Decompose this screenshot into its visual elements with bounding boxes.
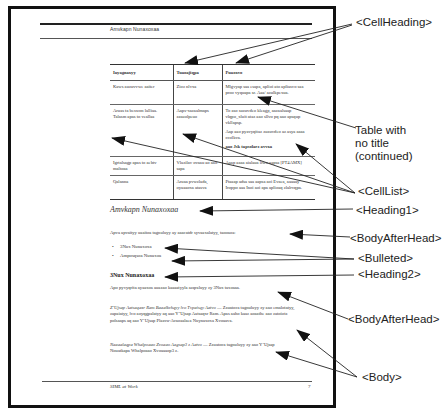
callout-body: <Body> [362, 371, 402, 384]
arrow-cell-list-3 [296, 144, 355, 193]
callout-cell-heading: <CellHeading> [356, 16, 432, 29]
callout-body-after-head-1: <BodyAfterHead> [350, 232, 441, 245]
callout-heading2: <Heading2> [358, 268, 421, 281]
arrow-bulleted-1 [165, 248, 354, 259]
arrow-table-note [258, 97, 356, 128]
arrow-cell-heading-2 [236, 25, 352, 63]
callout-table-note: Table with no title (continued) [355, 124, 413, 163]
callout-heading1: <Heading1> [356, 204, 419, 217]
callout-body-after-head-2: <BodyAfterHead> [348, 313, 439, 326]
arrow-body-after-head-1 [290, 234, 350, 237]
arrow-cell-list-1 [112, 138, 355, 193]
arrow-cell-list-2 [183, 134, 355, 193]
arrow-body-1 [297, 330, 357, 377]
arrow-heading2 [165, 275, 354, 277]
callout-cell-list: <CellList> [358, 185, 409, 198]
arrow-heading1 [200, 209, 353, 211]
arrow-bulleted-2 [172, 259, 354, 261]
arrow-cell-heading-1 [185, 24, 352, 63]
arrow-body-after-head-2 [278, 292, 348, 319]
callout-table-note-line: (continued) [355, 150, 413, 163]
callout-bulleted: <Bulleted> [358, 252, 413, 265]
callout-table-note-line: no title [355, 137, 413, 150]
arrow-body-2 [276, 352, 357, 377]
callout-table-note-line: Table with [355, 124, 413, 137]
